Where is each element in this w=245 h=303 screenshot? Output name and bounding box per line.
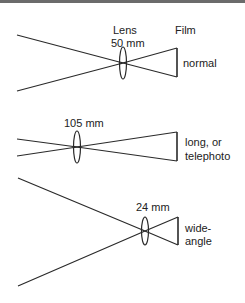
type-label-telephoto-line2: telephoto <box>185 150 230 163</box>
focal-length-label-telephoto: 105 mm <box>64 117 104 130</box>
type-label-wide-line1: wide- <box>185 222 211 235</box>
type-label-telephoto-line1: long, or <box>185 136 222 149</box>
lens-header-label: Lens <box>113 24 137 37</box>
focal-length-label-wide: 24 mm <box>136 201 170 214</box>
type-label-normal: normal <box>183 57 217 70</box>
light-ray-bottom-normal <box>17 48 177 91</box>
light-ray-bottom-wide-angle <box>18 217 178 286</box>
light-ray-top-telephoto <box>17 139 177 161</box>
film-header-label: Film <box>175 24 196 37</box>
focal-length-label-normal: 50 mm <box>111 37 145 50</box>
light-ray-top-normal <box>17 35 177 77</box>
light-ray-bottom-telephoto <box>17 132 177 156</box>
type-label-wide-line2: angle <box>185 235 212 248</box>
